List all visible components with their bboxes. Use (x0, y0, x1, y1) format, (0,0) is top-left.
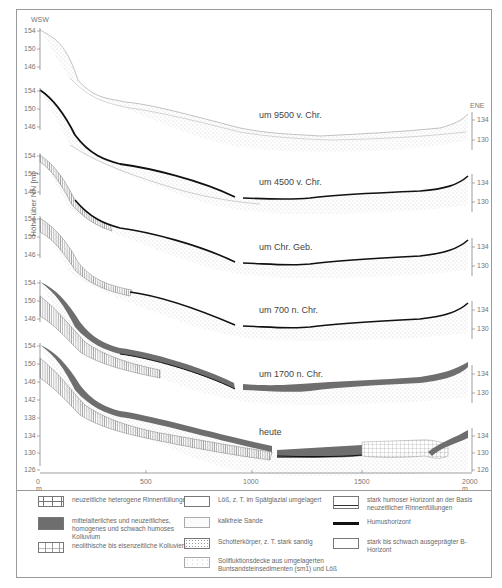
tick-label: 154 (24, 152, 36, 159)
x-tick-label: 1500 (354, 478, 370, 485)
tick-label: 150 (24, 233, 36, 240)
legend-text: neuzeitliche heterogene Rinnenfüllungen (72, 496, 190, 504)
legend-text: Solifluktionsdecke aus umgelagerten Bunt… (218, 557, 353, 573)
tick-label: 146 (24, 378, 36, 385)
tick-label: 130 (477, 325, 489, 332)
profile-4500-bc (37, 88, 475, 214)
tick-label: 154 (24, 342, 36, 349)
gray-fill-swatch-icon (38, 517, 64, 530)
tick-label: 134 (24, 432, 36, 439)
tick-label: 154 (24, 215, 36, 222)
legend-text: stark bis schwach ausgeprägter B-Horizon… (367, 538, 487, 554)
tick-label: 130 (477, 136, 489, 143)
grid-swatch-icon (38, 496, 64, 507)
orientation-right-label: ENE (470, 102, 484, 109)
tick-label: 146 (24, 251, 36, 258)
tick-label: 150 (24, 45, 36, 52)
legend-item-schotter: Schotterkörper, z. T. stark sandig (184, 538, 313, 549)
tick-label: 134 (477, 370, 489, 377)
profile-label: heute (259, 427, 282, 437)
legend-item-rinnen: neuzeitliche heterogene Rinnenfüllungen (38, 496, 190, 507)
tick-label: 142 (24, 396, 36, 403)
legend-item-b-horizont: stark bis schwach ausgeprägter B-Horizon… (333, 538, 487, 554)
tick-label: 130 (477, 449, 489, 456)
tick-label: 146 (24, 188, 36, 195)
tick-label: 154 (24, 27, 36, 34)
legend-item-solifluktion: Solifluktionsdecke aus umgelagerten Bunt… (184, 557, 353, 573)
blank-swatch-icon (184, 496, 210, 507)
tick-label: 150 (24, 170, 36, 177)
tick-label: 126 (477, 466, 489, 473)
profile-1700-ad (37, 280, 475, 405)
tick-label: 146 (24, 315, 36, 322)
tick-label: 146 (24, 63, 36, 70)
tick-label: 150 (24, 105, 36, 112)
legend-item-kolluvien-neo: neolithische bis eisenzeitliche Kolluvie… (38, 542, 185, 553)
tick-label: 134 (477, 243, 489, 250)
profile-label: um 9500 v. Chr. (259, 110, 322, 120)
legend-text: stark humoser Horizont an der Basis neuz… (367, 496, 487, 512)
thick-line-swatch-icon (333, 518, 359, 529)
cross-section-figure: Höhe über NN [m] (0, 0, 502, 588)
orientation-left-label: WSW (31, 16, 49, 23)
tick-label: 134 (477, 116, 489, 123)
tick-label: 130 (477, 198, 489, 205)
tick-label: 130 (477, 389, 489, 396)
legend-text: kalkfreie Sande (218, 517, 263, 525)
vertical-lines-swatch-icon (333, 538, 359, 549)
tick-label: 134 (477, 179, 489, 186)
x-tick-label: 500 (140, 478, 152, 485)
tick-label: 146 (24, 123, 36, 130)
profile-chr-geb (37, 153, 475, 278)
light-swatch-icon (184, 517, 210, 528)
tick-label: 134 (477, 432, 489, 439)
legend-text: mittelalterliches und neuzeitliches, hom… (72, 517, 192, 541)
x-tick-label: 1000 (243, 478, 259, 485)
tick-label: 130 (477, 262, 489, 269)
legend-item-sande: kalkfreie Sande (184, 517, 263, 528)
profile-700-ad (37, 216, 475, 341)
tick-label: 154 (24, 87, 36, 94)
dotted-swatch-icon (184, 538, 210, 549)
tick-label: 150 (24, 297, 36, 304)
profile-label: um 4500 v. Chr. (259, 177, 322, 187)
legend-text: Löß, z. T. im Spätglazial umgelagert (218, 496, 321, 504)
tick-label: 154 (24, 279, 36, 286)
fine-grid-swatch-icon (38, 542, 64, 553)
profile-label: um 700 n. Chr. (259, 305, 318, 315)
legend-text: neolithische bis eisenzeitliche Kolluvie… (72, 542, 185, 550)
legend-item-kolluvium-mittel: mittelalterliches und neuzeitliches, hom… (38, 517, 192, 541)
tick-label: 130 (24, 449, 36, 456)
profile-label: um Chr. Geb. (259, 242, 313, 252)
tick-label: 134 (477, 306, 489, 313)
legend-text: Humushorizont (367, 518, 411, 526)
tick-label: 150 (24, 360, 36, 367)
sparse-dots-swatch-icon (184, 557, 210, 568)
profile-label: um 1700 n. Chr. (259, 369, 323, 379)
legend-item-humus: Humushorizont (333, 518, 411, 529)
profile-9500-bc (37, 28, 475, 152)
legend-item-humoser-basis: stark humoser Horizont an der Basis neuz… (333, 496, 487, 512)
legend-text: Schotterkörper, z. T. stark sandig (218, 538, 313, 546)
channel-swatch-icon (333, 496, 359, 509)
tick-label: 126 (24, 466, 36, 473)
legend-item-loess: Löß, z. T. im Spätglazial umgelagert (184, 496, 321, 507)
tick-label: 138 (24, 414, 36, 421)
